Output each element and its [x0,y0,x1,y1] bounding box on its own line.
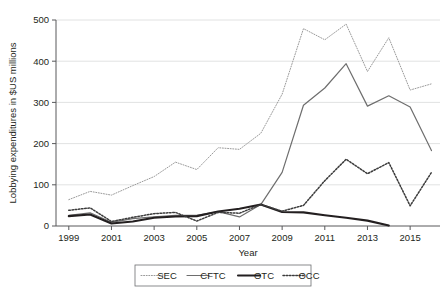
x-axis-title: Year [238,247,257,258]
legend-label-otc: OTC [254,270,274,281]
x-tick-label: 2015 [400,232,421,243]
y-tick-label: 300 [33,97,49,108]
y-axis-title: Lobbying expenditures in $US millions [7,42,18,203]
x-tick-label: 2003 [144,232,165,243]
x-tick-label: 2001 [101,232,122,243]
legend-label-occ: OCC [298,270,319,281]
y-tick-label: 0 [44,220,49,231]
y-tick-label: 200 [33,138,49,149]
lobbying-expenditures-chart: 0100200300400500 19992001200320052007200… [0,0,446,298]
chart-legend: SECCFTCOTCOCC [135,265,320,286]
x-tick-label: 2009 [272,232,293,243]
x-tick-label: 2013 [357,232,378,243]
x-tick-label: 2007 [229,232,250,243]
x-tick-label: 1999 [58,232,79,243]
y-tick-label: 100 [33,179,49,190]
y-tick-label: 400 [33,56,49,67]
x-tick-label: 2011 [315,232,335,243]
y-tick-label: 500 [33,14,49,25]
chart-svg: 0100200300400500 19992001200320052007200… [0,0,446,298]
legend-label-sec: SEC [157,270,177,281]
legend-label-cftc: CFTC [200,270,225,281]
x-tick-label: 2005 [186,232,207,243]
chart-background [0,0,446,298]
